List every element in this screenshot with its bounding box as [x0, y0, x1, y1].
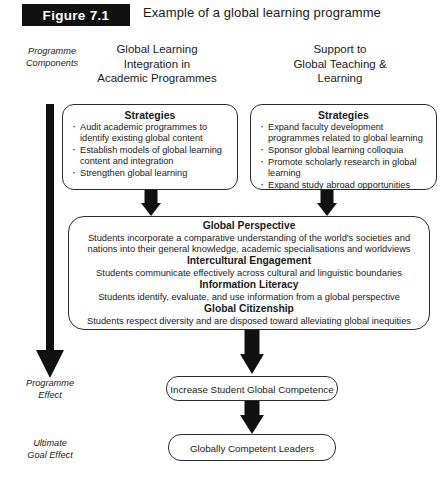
outcome-intercultural-engagement: Intercultural Engagement Students commun… [71, 255, 427, 279]
list-item: Strengthen global learning [72, 168, 232, 179]
strategies-box-left: Strategies Audit academic programmes to … [62, 104, 238, 190]
outcome-description: Students communicate effectively across … [71, 268, 427, 279]
outcome-title: Intercultural Engagement [71, 255, 427, 268]
effect-box-student-competence: Increase Student Global Competence [166, 376, 338, 401]
outcome-global-perspective: Global Perspective Students incorporate … [71, 220, 427, 255]
figure-number-badge: Figure 7.1 [22, 4, 130, 26]
strategies-right-title: Strategies [251, 109, 436, 121]
list-item: Expand study abroad opportunities [260, 180, 431, 191]
outcome-title: Global Citizenship [71, 303, 427, 316]
effect-box-leaders-label: Globally Competent Leaders [169, 435, 335, 462]
list-item: Audit academic programmes to identify ex… [72, 122, 232, 144]
side-label-programme-effect: Programme Effect [12, 378, 88, 401]
strategies-box-right: Strategies Expand faculty development pr… [250, 104, 437, 190]
strategies-left-title: Strategies [63, 109, 237, 121]
outcome-global-citizenship: Global Citizenship Students respect dive… [71, 303, 427, 327]
outcome-description: Students respect diversity and are dispo… [71, 316, 427, 327]
outcome-description: Students incorporate a comparative under… [71, 233, 427, 256]
strategies-left-list: Audit academic programmes to identify ex… [63, 122, 237, 179]
side-label-ultimate-goal-effect: Ultimate Goal Effect [12, 438, 88, 461]
down-arrow-icon-right-strategies-to-outcomes [310, 190, 344, 218]
column-heading-support-to-global-teaching: Support to Global Teaching & Learning [250, 42, 430, 86]
outcome-description: Students identify, evaluate, and use inf… [71, 292, 427, 303]
down-arrow-icon-outcomes-to-competence [235, 330, 269, 376]
strategies-right-list: Expand faculty development programmes re… [251, 122, 436, 191]
outcomes-box: Global Perspective Students incorporate … [68, 216, 430, 330]
effect-box-globally-competent-leaders: Globally Competent Leaders [168, 434, 336, 461]
list-item: Sponsor global learning colloquia [260, 145, 431, 156]
figure-caption: Example of a global learning programme [143, 5, 381, 20]
down-arrow-icon-competence-to-leaders [235, 401, 269, 435]
column-heading-global-learning-integration: Global Learning Integration in Academic … [72, 42, 242, 86]
outcome-title: Information Literacy [71, 279, 427, 292]
figure-container: Figure 7.1 Example of a global learning … [0, 0, 448, 481]
list-item: Promote scholarly research in global lea… [260, 157, 431, 179]
list-item: Establish models of global learning cont… [72, 145, 232, 167]
effect-box-competence-label: Increase Student Global Competence [167, 377, 337, 402]
outcome-title: Global Perspective [71, 220, 427, 233]
list-item: Expand faculty development programmes re… [260, 122, 431, 144]
down-arrow-icon-left-strategies-to-outcomes [134, 190, 168, 218]
outcome-information-literacy: Information Literacy Students identify, … [71, 279, 427, 303]
